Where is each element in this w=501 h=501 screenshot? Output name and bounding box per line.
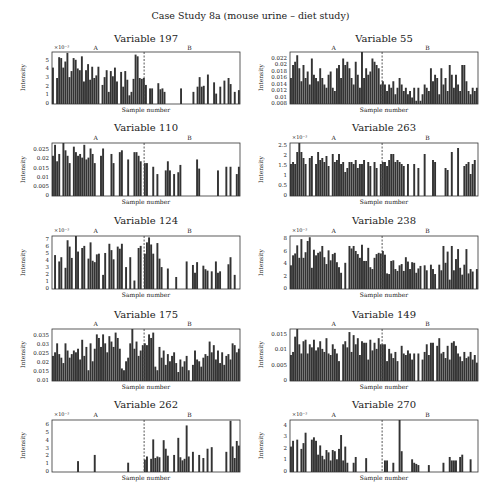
bar <box>67 351 69 381</box>
bar <box>188 370 190 381</box>
bar <box>417 268 419 289</box>
y-tick-label: 0.005 <box>257 362 287 368</box>
bar-plot <box>52 143 240 196</box>
bar <box>417 88 419 104</box>
bar <box>292 441 294 472</box>
bar <box>154 367 156 381</box>
bar <box>365 458 367 472</box>
bar <box>461 65 463 104</box>
bar <box>67 240 69 289</box>
bar <box>353 164 355 196</box>
bar <box>463 65 465 104</box>
bar <box>125 361 127 381</box>
bar <box>463 265 465 289</box>
bar <box>125 267 127 289</box>
bar <box>129 343 131 381</box>
bar <box>361 341 363 381</box>
bar <box>186 425 188 472</box>
bar <box>378 253 380 289</box>
bar <box>321 158 323 196</box>
bar <box>65 343 67 381</box>
bar <box>146 345 148 381</box>
bar <box>121 244 123 289</box>
bar <box>85 159 87 196</box>
bar <box>453 88 455 104</box>
bar <box>407 350 409 381</box>
y-tick-label: 0 <box>19 100 49 106</box>
y-tick-label: 3 <box>19 264 49 270</box>
bar <box>167 269 169 289</box>
group-label-b: B <box>187 411 191 418</box>
bar <box>71 258 73 289</box>
bar <box>428 91 430 104</box>
bar <box>474 355 476 381</box>
group-label-a: A <box>331 320 335 327</box>
bar <box>323 257 325 289</box>
bar <box>129 257 131 289</box>
bar <box>96 334 98 381</box>
y-tick-label: 6 <box>19 243 49 249</box>
bar <box>344 263 346 289</box>
bar <box>127 159 129 196</box>
bar <box>215 359 217 381</box>
y-tick-label: 0.008 <box>257 100 287 106</box>
bar <box>234 458 236 472</box>
bar <box>296 329 298 381</box>
y-tick-label: 4 <box>19 437 49 443</box>
bar <box>346 168 348 196</box>
x-axis-label: Sample number <box>290 106 478 113</box>
x-axis-label: Sample number <box>52 106 240 113</box>
bar <box>230 359 232 381</box>
bar <box>207 75 209 104</box>
y-tick-label: 0 <box>257 468 287 474</box>
bar <box>202 458 204 472</box>
bar <box>217 273 219 289</box>
bar <box>148 237 150 289</box>
group-label-b: B <box>425 411 429 418</box>
bar <box>150 338 152 381</box>
bar <box>409 91 411 104</box>
bar <box>359 258 361 289</box>
bar <box>432 343 434 381</box>
bar <box>380 85 382 105</box>
bar <box>405 355 407 381</box>
bar-plot <box>52 236 240 289</box>
bar <box>65 150 67 196</box>
bar <box>81 56 83 104</box>
bar <box>476 363 478 381</box>
bar <box>470 352 472 381</box>
x-axis-label: Sample number <box>52 474 240 481</box>
bar <box>88 259 90 289</box>
bar <box>106 352 108 381</box>
bar <box>136 342 138 381</box>
panel-title: Variable 175 <box>42 309 250 320</box>
panel-title: Variable 270 <box>280 399 488 410</box>
bar <box>65 268 67 289</box>
bar <box>149 88 151 104</box>
x-axis-label: Sample number <box>52 198 240 205</box>
bar <box>121 150 123 196</box>
bar <box>403 166 405 196</box>
bar <box>397 160 399 196</box>
bar <box>332 450 334 472</box>
bar <box>294 62 296 104</box>
bar <box>315 78 317 104</box>
group-label-b: B <box>425 44 429 51</box>
bar <box>438 265 440 289</box>
x-axis-label: Sample number <box>290 474 478 481</box>
bar <box>442 85 444 105</box>
bar <box>305 164 307 196</box>
bar <box>432 160 434 196</box>
bar <box>472 360 474 381</box>
bar <box>440 270 442 289</box>
bar <box>169 361 171 381</box>
bar <box>470 269 472 289</box>
bar <box>426 88 428 104</box>
bar <box>428 355 430 381</box>
bar <box>317 347 319 381</box>
bar <box>465 358 467 381</box>
bar <box>148 334 150 381</box>
bar <box>167 456 169 472</box>
y-tick-label: 0.025 <box>19 350 49 356</box>
bar <box>392 81 394 104</box>
